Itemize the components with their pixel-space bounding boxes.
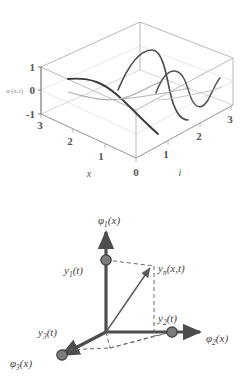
- vertical-tick-label-neg1: -1: [26, 108, 35, 120]
- dot-y1: [101, 255, 111, 265]
- phi3-axis: [62, 332, 106, 355]
- phi2-argument: (x): [216, 332, 229, 345]
- y2-argument: (t): [167, 312, 178, 325]
- phi3-argument: (x): [20, 357, 33, 370]
- x-tick-label-3: 3: [37, 119, 43, 131]
- i-tick-label-3: 3: [227, 113, 233, 125]
- y1-argument: (t): [73, 264, 84, 277]
- i-tick-label-2: 2: [196, 130, 202, 142]
- resultant-label: yn(x,t): [157, 262, 185, 277]
- mode-curve-1: [68, 79, 158, 134]
- x-tick-label-0: 0: [133, 166, 139, 178]
- vertical-axis: [38, 67, 41, 114]
- dash-phi1-to-tip: [106, 260, 154, 266]
- mode-curve-1-shadow: [68, 82, 160, 100]
- phi3-axis-line: [62, 332, 106, 355]
- i-axis-line: [136, 105, 233, 158]
- mode-curve-3: [156, 71, 220, 107]
- vertical-tick-label-0: 0: [30, 84, 36, 96]
- y2-label: y2(t): [157, 312, 177, 327]
- modal-basis-vector-svg: φ1(x) φ2(x) φ3(x) y1(t) y2(t) y3(t) yn(x…: [0, 190, 251, 380]
- i-axis-label: i: [179, 167, 182, 178]
- dot-y2: [167, 327, 177, 337]
- mode-shape-3d-figure: 1 0 -1 φᵢ(x,t) 3 2 1 0 x 1 2 3 i: [0, 0, 251, 190]
- x-axis-label: x: [86, 168, 92, 179]
- x-axis: [41, 114, 136, 162]
- x-tick-label-1: 1: [98, 150, 104, 162]
- phi1-argument: (x): [108, 214, 121, 227]
- dash-origin-floor-a: [106, 332, 110, 348]
- vertical-tick-label-1: 1: [30, 61, 36, 73]
- x-tick-label-2: 2: [67, 135, 73, 147]
- y3-label: y3(t): [37, 326, 57, 341]
- phi1-axis-label: φ1(x): [98, 214, 120, 229]
- i-tick-label-1: 1: [163, 148, 169, 160]
- mode-shape-3d-svg: 1 0 -1 φᵢ(x,t) 3 2 1 0 x 1 2 3 i: [0, 0, 251, 190]
- vertical-axis-label: φᵢ(x,t): [6, 87, 24, 95]
- modal-basis-vector-figure: φ1(x) φ2(x) φ3(x) y1(t) y2(t) y3(t) yn(x…: [0, 190, 251, 380]
- resultant-vector: [106, 268, 150, 332]
- dot-y3: [57, 350, 67, 360]
- resultant-argument: (x,t): [167, 262, 185, 275]
- x-axis-line: [41, 114, 136, 158]
- box-back-bottom-left: [41, 70, 140, 114]
- y3-argument: (t): [47, 326, 58, 339]
- phi3-axis-label: φ3(x): [10, 357, 32, 372]
- dash-phi3-to-floor: [62, 348, 110, 350]
- i-axis: [136, 105, 233, 158]
- y1-label: y1(t): [63, 264, 83, 279]
- phi2-axis-label: φ2(x): [206, 332, 228, 347]
